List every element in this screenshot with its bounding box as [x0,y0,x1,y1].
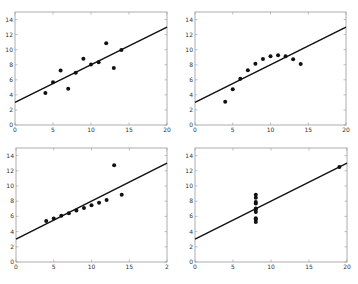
y-tick-label: 14 [6,152,14,159]
data-point [231,87,235,91]
subplot-bottom-right: 0246810121405101520 [185,148,351,270]
data-point [59,68,63,72]
data-point [52,216,56,220]
y-tick-label: 10 [185,46,193,53]
y-tick-label: 12 [185,31,193,38]
data-point [291,57,295,61]
y-tick-label: 10 [5,46,13,53]
y-tick-label: 2 [10,243,14,250]
x-tick-label: 5 [51,126,55,133]
y-tick-label: 4 [189,91,193,98]
y-tick-label: 6 [189,212,193,219]
y-tick-label: 8 [9,61,13,68]
y-tick-label: 12 [6,167,14,174]
data-point [276,53,280,57]
y-tick-label: 12 [5,31,13,38]
data-point [261,57,265,61]
data-point [81,57,85,61]
y-tick-label: 2 [189,243,193,250]
data-point [284,54,288,58]
x-tick-label: 5 [231,126,235,133]
data-point [66,87,70,91]
data-point [105,198,109,202]
data-point [253,62,257,66]
y-tick-label: 4 [189,228,193,235]
data-point [238,77,242,81]
data-point [299,62,303,66]
x-tick-label: 0 [14,263,18,270]
data-point [97,201,101,205]
data-point [254,196,258,200]
chart-canvas: 0246810121405101520024681012140510152002… [0,0,358,284]
x-tick-label: 10 [88,263,96,270]
y-tick-label: 6 [10,212,14,219]
data-point [254,200,258,204]
data-point [59,214,63,218]
data-point [104,41,108,45]
axes-frame [195,148,347,262]
y-tick-label: 8 [10,197,14,204]
x-tick-label: 5 [52,263,56,270]
x-tick-label: 10 [267,126,275,133]
data-point [51,80,55,84]
data-point [246,68,250,72]
data-point [90,203,94,207]
x-tick-label: 0 [13,126,17,133]
x-tick-label: 10 [267,263,275,270]
y-tick-label: 4 [10,228,14,235]
data-point [44,219,48,223]
data-point [82,206,86,210]
y-tick-label: 2 [9,106,13,113]
axes-frame [15,12,167,125]
data-point [269,54,273,58]
y-tick-label: 4 [9,91,13,98]
y-tick-label: 10 [6,182,14,189]
x-tick-label: 0 [193,263,197,270]
subplot-bottom-left: 024681012140510152 [6,148,169,270]
y-tick-label: 12 [185,167,193,174]
data-point [119,48,123,52]
y-tick-label: 6 [189,76,193,83]
y-tick-label: 2 [189,106,193,113]
y-tick-label: 10 [185,182,193,189]
x-tick-label: 10 [87,126,95,133]
data-point [89,62,93,66]
data-point [254,218,258,222]
y-tick-label: 14 [185,152,193,159]
anscombe-quartet-figure: 0246810121405101520024681012140510152002… [0,0,358,284]
subplot-top-right: 0246810121405101520 [185,12,350,133]
y-tick-label: 6 [9,76,13,83]
data-point [337,165,341,169]
x-tick-label: 0 [193,126,197,133]
y-tick-label: 8 [189,61,193,68]
x-tick-label: 20 [342,126,350,133]
data-point [223,100,227,104]
x-tick-label: 15 [305,263,313,270]
x-tick-label: 20 [163,126,171,133]
x-tick-label: 15 [125,263,133,270]
data-point [74,209,78,213]
y-tick-label: 14 [5,16,13,23]
x-tick-label: 15 [125,126,133,133]
x-tick-label: 2 [165,263,169,270]
data-point [112,163,116,167]
x-tick-label: 20 [343,263,351,270]
data-point [120,193,124,197]
axes-frame [195,12,346,125]
data-point [97,60,101,64]
data-point [74,71,78,75]
x-tick-label: 15 [304,126,312,133]
data-point [43,91,47,95]
data-point [67,211,71,215]
y-tick-label: 14 [185,16,193,23]
data-point [254,208,258,212]
data-point [112,66,116,70]
y-tick-label: 8 [189,197,193,204]
x-tick-label: 5 [231,263,235,270]
subplot-top-left: 0246810121405101520 [5,12,171,133]
